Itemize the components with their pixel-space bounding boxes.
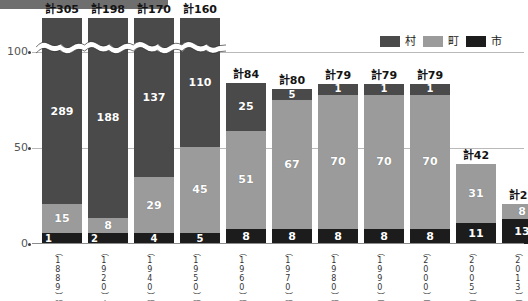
x-axis-label: （2005）平成17年 [467, 248, 475, 301]
x-axis-label: （2013）平成25年 [513, 248, 521, 301]
bar-column[interactable]: 計791708 [318, 84, 358, 245]
x-axis-label: （2000）平成12年 [421, 248, 429, 301]
bar-total-label: 計160 [183, 0, 217, 16]
bar-segment-value: 5 [289, 90, 296, 100]
x-axis-label-year: （2005） [467, 248, 475, 300]
y-axis-tick-mark [28, 147, 31, 150]
x-axis-label-year: （1990） [375, 248, 383, 300]
bar-segment-value: 1 [427, 84, 434, 94]
chart-root: 村町市 100500 計305289151計19818882計170137294… [0, 0, 528, 301]
bar-total-label: 計21 [509, 186, 528, 202]
y-axis-tick-label: 50 [14, 141, 28, 154]
x-axis-label: （1970）昭和45年 [283, 248, 291, 301]
bar-segment-value: 8 [242, 231, 250, 242]
bar-segment-value: 67 [284, 159, 299, 170]
bar-segment-town[interactable]: 45 [180, 147, 220, 233]
x-axis-baseline [32, 243, 524, 244]
x-axis-label-year: （2013） [513, 248, 521, 300]
bar-total-label: 計84 [233, 65, 259, 81]
bar-segment-value: 11 [468, 228, 483, 239]
bar-total-label: 計198 [91, 0, 125, 16]
x-axis-labels: （1889）明治22年（1920）大正9年（1940）昭和15年（1950）昭和… [32, 248, 524, 301]
bar-column[interactable]: 計423111 [456, 164, 496, 245]
bar-segment-value: 2 [91, 234, 98, 244]
bar-segment-town[interactable]: 29 [134, 177, 174, 233]
x-axis-label-year: （1920） [99, 248, 107, 300]
bar-segment-city[interactable]: 8 [318, 229, 358, 244]
bar-segment-value: 15 [54, 213, 69, 224]
x-axis-label-year: （1950） [191, 248, 199, 300]
bar-segment-city[interactable]: 8 [272, 229, 312, 244]
bar-segment-value: 5 [197, 234, 204, 244]
x-axis-label: （1889）明治22年 [53, 248, 61, 301]
bar-segment-value: 8 [288, 231, 296, 242]
x-axis-label-year: （1960） [237, 248, 245, 300]
bar-segment-value: 8 [518, 206, 526, 217]
bar-segment-village[interactable]: 5 [272, 89, 312, 100]
bar-segment-town[interactable]: 70 [364, 95, 404, 229]
bar-segment-value: 188 [97, 112, 120, 123]
x-axis-label: （1920）大正9年 [99, 248, 107, 301]
x-axis-label: （1940）昭和15年 [145, 248, 153, 301]
bar-segment-value: 70 [330, 156, 345, 167]
bar-segment-village[interactable]: 1 [364, 84, 404, 95]
bar-segment-value: 4 [151, 234, 158, 244]
bar-column[interactable]: 計21813 [502, 204, 528, 244]
bar-total-label: 計170 [137, 0, 171, 16]
x-axis-label: （1990）平成2年 [375, 248, 383, 301]
bar-total-label: 計305 [45, 0, 79, 16]
x-axis-label: （1950）昭和25年 [191, 248, 199, 301]
bar-segment-value: 70 [422, 156, 437, 167]
x-axis-label-year: （1889） [53, 248, 61, 300]
bar-segment-value: 51 [238, 174, 253, 185]
x-axis-label-year: （1970） [283, 248, 291, 300]
bar-segment-town[interactable]: 8 [502, 204, 528, 219]
axis-break-wave-icon [36, 38, 226, 58]
bar-total-label: 計79 [371, 66, 397, 82]
bar-segment-value: 8 [426, 231, 434, 242]
bar-segment-town[interactable]: 15 [42, 204, 82, 233]
bar-segment-town[interactable]: 51 [226, 131, 266, 229]
bar-segment-value: 289 [51, 106, 74, 117]
bar-segment-value: 70 [376, 156, 391, 167]
bar-segment-value: 31 [468, 188, 483, 199]
bar-column[interactable]: 計791708 [364, 84, 404, 245]
bar-segment-town[interactable]: 70 [410, 95, 450, 229]
x-axis-label-year: （1940） [145, 248, 153, 300]
bar-segment-value: 8 [380, 231, 388, 242]
bar-column[interactable]: 計791708 [410, 84, 450, 245]
x-axis-label-year: （1980） [329, 248, 337, 300]
bar-segment-city[interactable]: 11 [456, 223, 496, 244]
bar-total-label: 計42 [463, 146, 489, 162]
bar-segment-town[interactable]: 67 [272, 100, 312, 228]
bar-segment-city[interactable]: 8 [364, 229, 404, 244]
y-axis-tick-label: 100 [7, 45, 28, 58]
y-axis-tick-mark [28, 51, 31, 54]
bar-total-label: 計79 [417, 66, 443, 82]
bar-column[interactable]: 計8425518 [226, 83, 266, 244]
x-axis-label-year: （2000） [421, 248, 429, 300]
bar-segment-village[interactable]: 110 [180, 18, 220, 147]
y-axis-tick-mark [28, 243, 31, 246]
bar-segment-city[interactable]: 13 [502, 219, 528, 244]
bar-segment-value: 25 [238, 101, 253, 112]
bar-segment-value: 137 [143, 92, 166, 103]
bar-segment-village[interactable]: 1 [410, 84, 450, 95]
bar-segment-town[interactable]: 70 [318, 95, 358, 229]
y-axis-tick-label: 0 [21, 237, 28, 250]
bar-segment-value: 1 [335, 84, 342, 94]
bar-segment-value: 8 [334, 231, 342, 242]
bar-segment-town[interactable]: 31 [456, 164, 496, 223]
bar-segment-city[interactable]: 8 [226, 229, 266, 244]
bar-segment-value: 29 [146, 200, 161, 211]
x-axis-label: （1960）昭和35年 [237, 248, 245, 301]
bar-segment-town[interactable]: 8 [88, 218, 128, 233]
bar-column[interactable]: 計805678 [272, 89, 312, 244]
bar-segment-value: 8 [104, 220, 112, 231]
bar-total-label: 計80 [279, 71, 305, 87]
y-axis-labels: 100500 [0, 14, 28, 244]
bar-segment-city[interactable]: 8 [410, 229, 450, 244]
bar-segment-village[interactable]: 1 [318, 84, 358, 95]
bar-segment-village[interactable]: 25 [226, 83, 266, 131]
bar-segment-value: 110 [189, 77, 212, 88]
